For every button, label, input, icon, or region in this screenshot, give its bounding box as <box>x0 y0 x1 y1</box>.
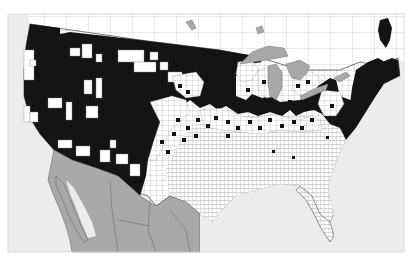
distribution-map <box>0 0 408 258</box>
